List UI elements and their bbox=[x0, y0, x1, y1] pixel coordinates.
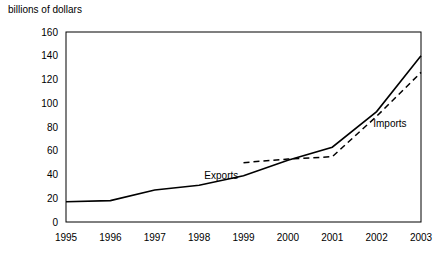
x-tick-label: 1997 bbox=[144, 232, 167, 243]
x-axis-ticks: 1995 1996 1997 1998 1999 2000 2001 2002 … bbox=[55, 232, 433, 243]
y-tick-label: 140 bbox=[41, 50, 58, 61]
series-annotation-exports: Exports bbox=[204, 170, 238, 181]
y-tick-label: 160 bbox=[41, 27, 58, 38]
plot-area-border bbox=[66, 32, 421, 222]
chart-container: billions of dollars 160 140 120 100 80 6… bbox=[0, 0, 442, 255]
y-tick-label: 0 bbox=[52, 217, 58, 228]
y-tick-label: 20 bbox=[47, 193, 59, 204]
x-tick-label: 1996 bbox=[99, 232, 122, 243]
x-tick-label: 2001 bbox=[321, 232, 344, 243]
series-annotation-imports: Imports bbox=[373, 118, 406, 129]
y-tick-label: 80 bbox=[47, 122, 59, 133]
line-chart: 160 140 120 100 80 60 40 20 0 1995 1996 … bbox=[0, 0, 442, 255]
y-tick-label: 60 bbox=[47, 145, 59, 156]
x-tick-label: 2000 bbox=[277, 232, 300, 243]
y-axis-ticks: 160 140 120 100 80 60 40 20 0 bbox=[41, 27, 58, 228]
x-tick-label: 1999 bbox=[232, 232, 255, 243]
y-tick-label: 100 bbox=[41, 98, 58, 109]
y-tick-label: 40 bbox=[47, 169, 59, 180]
x-tick-label: 2003 bbox=[410, 232, 433, 243]
x-tick-label: 1998 bbox=[188, 232, 211, 243]
x-tick-label: 2002 bbox=[365, 232, 388, 243]
x-tick-label: 1995 bbox=[55, 232, 78, 243]
y-tick-label: 120 bbox=[41, 74, 58, 85]
